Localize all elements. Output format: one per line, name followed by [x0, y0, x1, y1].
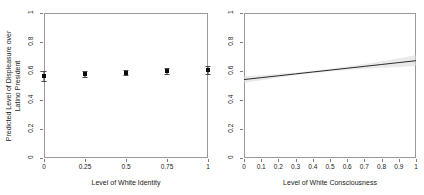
y-tick-label: 0.6 — [228, 63, 235, 77]
x-tick-mark — [399, 159, 400, 162]
x-tick-mark — [382, 159, 383, 162]
x-tick-mark — [261, 159, 262, 162]
data-point — [165, 69, 169, 73]
error-bar-cap — [124, 75, 129, 76]
y-tick-mark — [240, 129, 243, 130]
y-tick-label: 0 — [28, 150, 35, 164]
data-point — [42, 74, 46, 78]
y-tick-label: 0.8 — [228, 34, 235, 48]
x-tick-mark — [167, 159, 168, 162]
y-tick-label: 1 — [228, 5, 235, 19]
x-tick-mark — [296, 159, 297, 162]
x-tick-label: 1 — [405, 164, 424, 171]
y-tick-mark — [40, 42, 43, 43]
y-tick-mark — [240, 13, 243, 14]
y-tick-label: 0.6 — [28, 63, 35, 77]
x-tick-mark — [416, 159, 417, 162]
data-point — [206, 68, 210, 72]
x-axis-title-left: Level of White Identity — [44, 179, 208, 186]
data-point — [124, 71, 128, 75]
error-bar-cap — [42, 81, 47, 82]
x-tick-mark — [244, 159, 245, 162]
y-tick-mark — [240, 158, 243, 159]
fitted-line — [244, 61, 416, 80]
y-tick-mark — [40, 129, 43, 130]
y-tick-mark — [40, 13, 43, 14]
x-tick-mark — [278, 159, 279, 162]
x-tick-mark — [313, 159, 314, 162]
y-tick-mark — [240, 42, 243, 43]
y-tick-label: 0.4 — [28, 92, 35, 106]
y-tick-label: 0.2 — [28, 121, 35, 135]
x-tick-label: 0.5 — [115, 164, 137, 171]
error-bar-cap — [42, 71, 47, 72]
panel-white-consciousness: 00.20.40.60.81 00.10.20.30.40.50.60.70.8… — [212, 0, 424, 195]
y-tick-label: 0.2 — [228, 121, 235, 135]
y-tick-label: 0.4 — [228, 92, 235, 106]
x-tick-mark — [85, 159, 86, 162]
x-tick-mark — [126, 159, 127, 162]
x-axis-title-right: Level of White Consciousness — [244, 179, 416, 186]
x-tick-label: 0.25 — [74, 164, 96, 171]
x-tick-label: 0.75 — [156, 164, 178, 171]
error-bar-cap — [83, 77, 88, 78]
x-tick-mark — [347, 159, 348, 162]
confidence-band — [244, 55, 416, 82]
y-tick-mark — [240, 71, 243, 72]
x-tick-mark — [364, 159, 365, 162]
y-tick-label: 1 — [28, 5, 35, 19]
data-point — [83, 72, 87, 76]
x-tick-label: 0 — [33, 164, 55, 171]
x-tick-mark — [44, 159, 45, 162]
x-tick-mark — [330, 159, 331, 162]
figure-container: Predicted Level of Displeasure over Lati… — [0, 0, 424, 195]
error-bar-cap — [165, 74, 170, 75]
error-bar-cap — [206, 74, 211, 75]
x-tick-mark — [208, 159, 209, 162]
y-tick-mark — [40, 158, 43, 159]
y-tick-mark — [240, 100, 243, 101]
error-bar-cap — [206, 66, 211, 67]
y-tick-label: 0 — [228, 150, 235, 164]
panel-white-identity: Predicted Level of Displeasure over Lati… — [0, 0, 212, 195]
y-tick-label: 0.8 — [28, 34, 35, 48]
y-tick-mark — [40, 100, 43, 101]
